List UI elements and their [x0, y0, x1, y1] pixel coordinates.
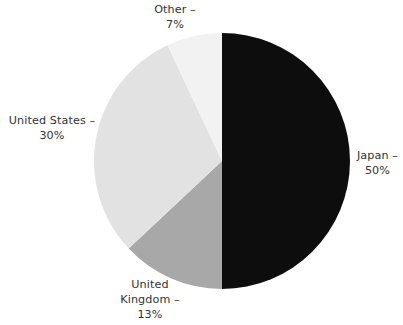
pie-label-united-kingdom: United Kingdom – 13% — [95, 277, 205, 322]
pie-label-japan: Japan – 50% — [352, 148, 403, 178]
pie-chart-figure: Other – 7% United States – 30% Japan – 5… — [0, 0, 403, 325]
pie-label-united-states: United States – 30% — [0, 113, 104, 143]
pie-slice-group — [94, 33, 350, 289]
pie-slice-japan — [222, 33, 350, 289]
pie-label-other: Other – 7% — [120, 2, 230, 32]
